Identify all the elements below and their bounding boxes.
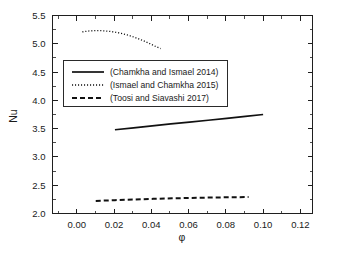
x-tick-label: 0.02 <box>105 219 124 230</box>
y-tick-label: 2.5 <box>32 180 45 191</box>
x-tick-label: 0.00 <box>67 219 86 230</box>
x-axis-title: φ <box>179 231 186 243</box>
y-axis-title: Nu <box>7 109 19 123</box>
legend-label-1: (Chamkha and Ismael 2014) <box>110 67 219 77</box>
x-tick-label: 0.10 <box>254 219 273 230</box>
x-tick-label: 0.04 <box>142 219 161 230</box>
nusselt-vs-phi-chart: 0.000.020.040.060.080.100.12 2.02.53.03.… <box>0 0 341 260</box>
y-tick-label: 3.0 <box>32 151 45 162</box>
y-tick-label: 4.5 <box>32 67 45 78</box>
y-tick-label: 5.0 <box>32 38 45 49</box>
x-tick-label: 0.08 <box>217 219 236 230</box>
y-tick-label: 4.0 <box>32 95 45 106</box>
y-tick-label: 2.0 <box>32 208 45 219</box>
x-tick-label: 0.06 <box>179 219 198 230</box>
chart-background <box>0 0 341 260</box>
legend-label-3: (Toosi and Siavashi 2017) <box>110 93 209 103</box>
y-tick-label: 5.5 <box>32 10 45 21</box>
legend-label-2: (Ismael and Chamkha 2015) <box>110 80 219 90</box>
legend: (Chamkha and Ismael 2014)(Ismael and Cha… <box>64 61 228 107</box>
y-tick-label: 3.5 <box>32 123 45 134</box>
chart-figure: 0.000.020.040.060.080.100.12 2.02.53.03.… <box>0 0 341 260</box>
x-tick-label: 0.12 <box>291 219 310 230</box>
